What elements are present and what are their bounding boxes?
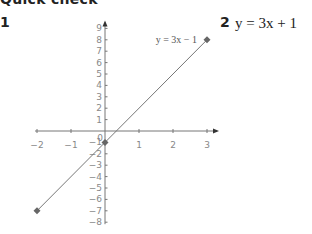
x-tick-label: 1 [136, 140, 142, 150]
series-line [37, 40, 207, 211]
line-equation-label: y = 3x − 1 [156, 34, 197, 45]
y-tick-label: −6 [89, 194, 103, 204]
y-tick-label: −7 [89, 206, 102, 216]
x-tick-label: 2 [170, 140, 176, 150]
x-tick-label: −2 [30, 140, 43, 150]
origin-label: 0 [97, 133, 103, 143]
x-tick-label: 3 [204, 140, 210, 150]
y-tick-label: 6 [96, 58, 102, 68]
y-tick-label: −5 [89, 183, 102, 193]
y-tick-label: 8 [96, 35, 102, 45]
y-tick-label: 5 [96, 69, 102, 79]
y-tick-label: 3 [96, 92, 102, 102]
x-axis-arrow-icon [213, 129, 219, 134]
y-tick-label: −4 [89, 172, 103, 182]
y-tick-label: 1 [96, 115, 102, 125]
y-tick-label: −3 [89, 160, 102, 170]
y-tick-label: 7 [96, 46, 102, 56]
y-tick-label: 9 [96, 23, 102, 33]
line-graph: −2−1123−8−7−6−5−4−3−2−11234567890y = 3x … [0, 0, 312, 234]
y-axis-arrow-icon [103, 20, 108, 26]
y-tick-label: 4 [96, 80, 102, 90]
y-tick-label: 2 [96, 103, 102, 113]
y-tick-label: −8 [89, 217, 103, 227]
x-tick-label: −1 [64, 140, 77, 150]
